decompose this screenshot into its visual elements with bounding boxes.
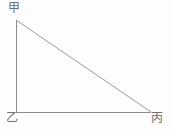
edge-hypotenuse [16, 20, 151, 112]
triangle-figure: 甲 乙 丙 [0, 0, 171, 130]
vertex-label-jia: 甲 [8, 2, 20, 14]
triangle-drawing [0, 0, 171, 130]
vertex-label-bing: 丙 [151, 112, 163, 124]
vertex-label-yi: 乙 [6, 112, 18, 124]
